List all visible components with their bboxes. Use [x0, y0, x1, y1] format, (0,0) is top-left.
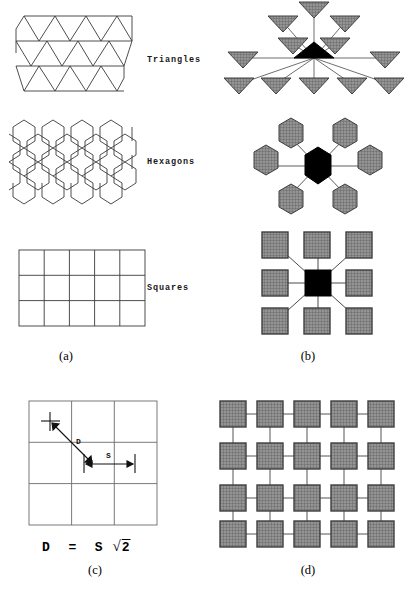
formula-radicand: 2 — [122, 540, 131, 555]
distance-formula: D = S √2 — [42, 538, 131, 555]
hexagon-neighborhood-svg — [253, 112, 383, 220]
formula-equals: = — [68, 540, 77, 555]
caption-b: (b) — [278, 349, 338, 364]
squares-label: Squares — [147, 283, 189, 293]
caption-d: (d) — [278, 563, 338, 578]
triangles-label: Triangles — [147, 55, 201, 65]
center-cell-square — [305, 270, 331, 296]
triangles-tiling-svg — [8, 12, 140, 102]
hexagon-neighborhood — [253, 112, 383, 220]
square-lattice-figure — [217, 398, 397, 548]
hexagons-label: Hexagons — [147, 157, 195, 167]
formula-s: S — [95, 540, 104, 555]
diagonal-distance-figure: D S — [28, 400, 164, 530]
square-lattice-svg — [217, 398, 397, 548]
diagonal-length-label: D — [76, 437, 81, 446]
sqrt-icon: √2 — [112, 538, 130, 554]
formula-d: D — [42, 540, 51, 555]
caption-a: (a) — [36, 349, 96, 364]
squares-tiling — [18, 249, 148, 329]
squares-tiling-svg — [18, 249, 148, 329]
hexagons-tiling — [8, 118, 140, 204]
caption-c: (c) — [65, 563, 125, 578]
triangle-neighborhood-svg — [213, 0, 418, 105]
side-length-label: S — [106, 451, 111, 460]
diagonal-distance-svg: D S — [28, 400, 164, 530]
triangle-neighborhood — [213, 0, 418, 105]
triangles-tiling — [8, 12, 140, 102]
square-neighborhood — [258, 231, 378, 335]
hexagons-tiling-svg — [8, 118, 140, 204]
center-cell-hexagon — [305, 147, 331, 184]
square-neighborhood-svg — [258, 231, 378, 335]
